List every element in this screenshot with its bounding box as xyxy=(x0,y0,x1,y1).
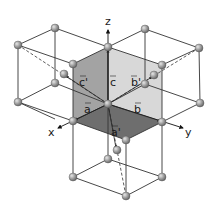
vector-label-c-prime: c' xyxy=(79,76,88,89)
z-axis-label: z xyxy=(105,15,111,28)
y-axis-label: y xyxy=(185,126,192,139)
vector-label-b-prime: b' xyxy=(131,76,141,89)
lattice-diagram: z x y c' c b' a b a' xyxy=(0,0,212,211)
vector-label-c: c xyxy=(110,76,116,89)
diagram-canvas: z x y c' c b' a b a' xyxy=(0,0,212,211)
vector-label-a-prime: a' xyxy=(111,126,121,139)
vector-label-a: a xyxy=(84,103,91,116)
vector-label-b: b xyxy=(134,103,141,116)
x-axis-label: x xyxy=(48,126,55,139)
